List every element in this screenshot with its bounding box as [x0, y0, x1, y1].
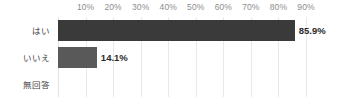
x-axis-tick-label: 80% — [270, 2, 287, 12]
x-axis-tick-label: 70% — [242, 2, 259, 12]
plot-area: 85.9%14.1% — [58, 17, 306, 97]
x-axis-tick-label: 30% — [132, 2, 149, 12]
bar — [58, 20, 295, 41]
x-axis-tick-label: 60% — [215, 2, 232, 12]
x-axis-tick-labels: 10%20%30%40%50%60%70%80%90% — [0, 0, 354, 17]
x-axis-tick-label: 40% — [160, 2, 177, 12]
bar — [58, 47, 97, 68]
category-label: はい — [32, 24, 50, 36]
x-axis-tick-label: 20% — [104, 2, 121, 12]
bar-value-label: 14.1% — [101, 52, 128, 63]
x-axis-tick-label: 90% — [297, 2, 314, 12]
category-axis-labels: はいいいえ無回答 — [0, 17, 54, 97]
bar-value-label: 85.9% — [299, 25, 326, 36]
category-label: 無回答 — [23, 78, 50, 90]
x-axis-tick-label: 50% — [187, 2, 204, 12]
x-axis-tick-label: 10% — [77, 2, 94, 12]
bar-chart: 10%20%30%40%50%60%70%80%90% はいいいえ無回答 85.… — [0, 0, 354, 97]
category-label: いいえ — [23, 51, 50, 63]
